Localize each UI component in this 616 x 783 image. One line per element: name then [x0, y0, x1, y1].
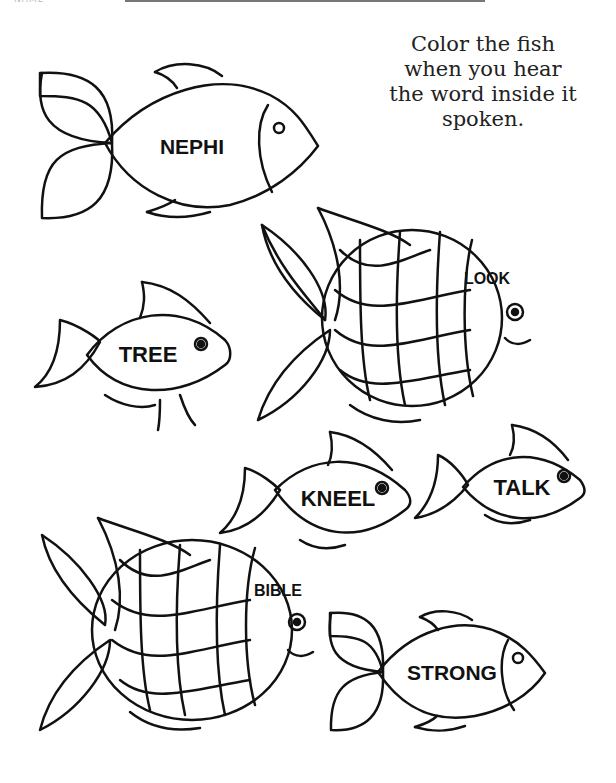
fish-word: BIBLE [254, 582, 302, 599]
fish-bible[interactable]: BIBLE [40, 518, 313, 730]
fish-word: LOOK [464, 270, 511, 287]
fish-word: NEPHI [160, 135, 224, 158]
fish-look[interactable]: LOOK [258, 208, 530, 422]
fish-kneel[interactable]: KNEEL [220, 432, 410, 548]
fish-word: TALK [493, 475, 550, 500]
fish-word: TREE [119, 342, 178, 367]
fish-word: KNEEL [301, 486, 376, 511]
fish-tree[interactable]: TREE [35, 282, 230, 430]
fish-strong[interactable]: STRONG [330, 611, 545, 730]
fish-word: STRONG [407, 661, 497, 684]
fish-talk[interactable]: TALK [415, 425, 585, 523]
fish-nephi[interactable]: NEPHI [40, 64, 318, 218]
